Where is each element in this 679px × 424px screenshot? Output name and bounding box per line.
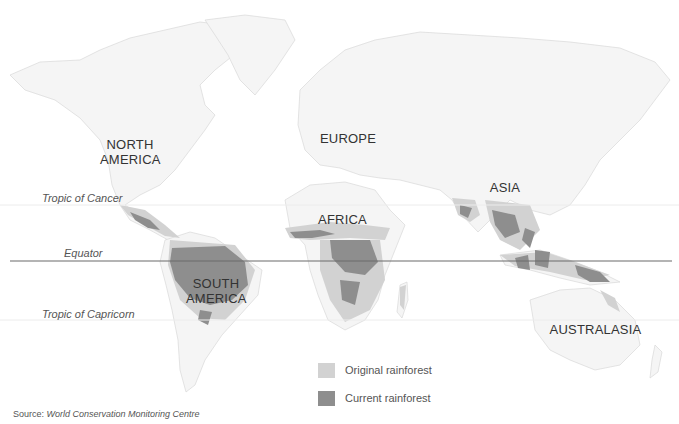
source-credit: Source: World Conservation Monitoring Ce…: [13, 409, 200, 419]
region-line1: AFRICA: [315, 212, 370, 227]
region-line1: SOUTH: [186, 276, 246, 291]
region-label-north-america: NORTH AMERICA: [100, 137, 160, 167]
legend-item-original: Original rainforest: [318, 358, 432, 382]
source-prefix: Source:: [13, 409, 44, 419]
region-label-asia: ASIA: [485, 180, 525, 195]
legend-item-current: Current rainforest: [318, 386, 432, 410]
region-line1: ASIA: [485, 180, 525, 195]
legend-label: Current rainforest: [345, 392, 431, 404]
tropic-of-cancer-label: Tropic of Cancer: [42, 192, 123, 204]
region-line1: AUSTRALASIA: [548, 322, 643, 337]
source-name: World Conservation Monitoring Centre: [47, 409, 200, 419]
equator-label: Equator: [64, 247, 103, 259]
north-america-shape: [10, 22, 240, 245]
region-label-europe: EUROPE: [318, 131, 378, 146]
tropic-of-capricorn-label: Tropic of Capricorn: [42, 308, 135, 320]
current-rainforest-swatch: [318, 391, 335, 406]
region-line2: AMERICA: [186, 291, 246, 306]
region-label-africa: AFRICA: [315, 212, 370, 227]
legend-label: Original rainforest: [345, 364, 432, 376]
map-legend: Original rainforest Current rainforest: [318, 358, 432, 414]
region-line1: EUROPE: [318, 131, 378, 146]
region-label-south-america: SOUTH AMERICA: [186, 276, 246, 306]
region-line1: NORTH: [100, 137, 160, 152]
region-label-australasia: AUSTRALASIA: [548, 322, 643, 337]
new-zealand-shape: [650, 345, 662, 378]
original-rainforest-swatch: [318, 363, 335, 378]
region-line2: AMERICA: [100, 152, 160, 167]
